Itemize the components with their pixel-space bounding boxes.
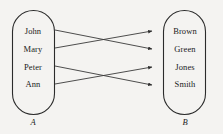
- node-label-peter: Peter: [14, 62, 52, 72]
- set-b-label: B: [165, 117, 205, 127]
- edge-mary-brown: [55, 31, 152, 48]
- node-label-smith: Smith: [165, 79, 205, 89]
- set-a-label: A: [14, 117, 52, 127]
- node-label-john: John: [14, 26, 52, 36]
- edge-ann-jones: [55, 67, 152, 84]
- mapping-diagram: John Mary Peter Ann Brown Green Jones Sm…: [0, 0, 223, 134]
- node-label-ann: Ann: [14, 79, 52, 89]
- node-label-green: Green: [165, 44, 205, 54]
- node-label-jones: Jones: [165, 62, 205, 72]
- node-label-brown: Brown: [165, 26, 205, 36]
- node-label-mary: Mary: [14, 44, 52, 54]
